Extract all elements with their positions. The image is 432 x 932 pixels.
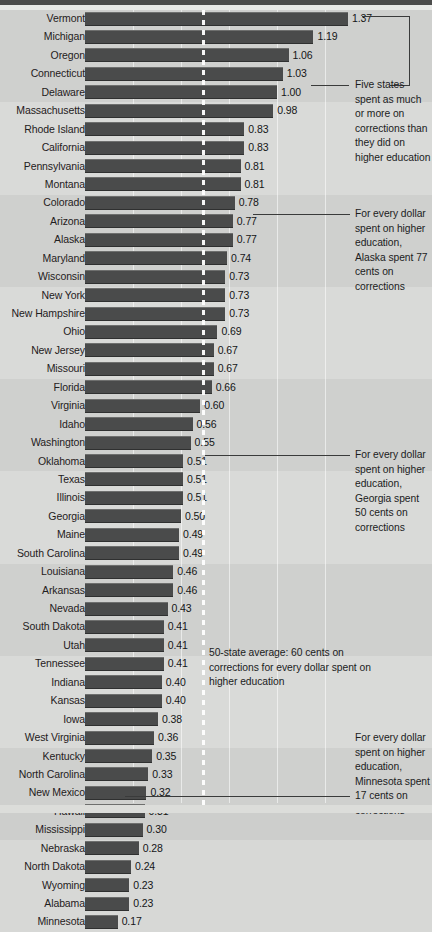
bar (85, 122, 244, 136)
bar-value-label: 0.40 (166, 675, 186, 690)
bar-value-label: 0.33 (152, 767, 172, 782)
state-label: Oregon (51, 48, 85, 63)
bar (85, 48, 289, 62)
state-label: North Dakota (24, 859, 85, 874)
bar-value-label: 0.73 (229, 306, 249, 321)
bar (85, 177, 241, 191)
state-label: Indiana (51, 675, 85, 690)
state-label: Washington (31, 435, 85, 450)
bar (85, 491, 183, 505)
bar-row: Montana0.81 (0, 176, 432, 194)
bar (85, 546, 179, 560)
bar (85, 620, 164, 634)
bar (85, 638, 164, 652)
bar-row: Oregon1.06 (0, 47, 432, 65)
bar-value-label: 0.69 (221, 324, 241, 339)
bar (85, 307, 225, 321)
state-label: New Jersey (31, 343, 85, 358)
bar-value-label: 0.77 (237, 214, 257, 229)
state-label: Missouri (47, 361, 85, 376)
state-label: Arkansas (42, 583, 85, 598)
bar (85, 915, 118, 929)
bar (85, 786, 146, 800)
bar-value-label: 0.28 (143, 841, 163, 856)
bar-value-label: 0.66 (216, 380, 236, 395)
bar-row: Missouri0.67 (0, 360, 432, 378)
bar (85, 251, 227, 265)
bar-value-label: 0.40 (166, 693, 186, 708)
bar (85, 141, 244, 155)
bar-row: Vermont1.37 (0, 10, 432, 28)
state-label: Wisconsin (38, 269, 85, 284)
annotation-average: 50-state average: 60 cents on correction… (209, 646, 389, 690)
state-label: New Hampshire (12, 306, 85, 321)
bar (85, 897, 129, 911)
bar (85, 325, 217, 339)
bar-value-label: 0.46 (177, 583, 197, 598)
bar-value-label: 0.32 (150, 785, 170, 800)
bar-value-label: 1.19 (317, 29, 337, 44)
bar-row: New Hampshire0.73 (0, 305, 432, 323)
bar-value-label: 1.00 (281, 85, 301, 100)
bar-value-label: 0.24 (135, 859, 155, 874)
bar (85, 380, 212, 394)
state-label: New Mexico (29, 785, 85, 800)
bar (85, 675, 162, 689)
state-label: Florida (54, 380, 85, 395)
bar-row: Arkansas0.46 (0, 582, 432, 600)
bar (85, 196, 235, 210)
bar-value-label: 0.41 (168, 656, 188, 671)
bar-value-label: 0.36 (158, 730, 178, 745)
bar-row: Nebraska0.28 (0, 840, 432, 858)
bar (85, 417, 193, 431)
state-label: Mississippi (35, 822, 85, 837)
bar-value-label: 0.60 (204, 398, 224, 413)
state-label: Oklahoma (38, 454, 85, 469)
bar-value-label: 0.17 (122, 914, 142, 929)
bar-value-label: 0.23 (133, 878, 153, 893)
bar-row: Minnesota0.17 (0, 913, 432, 931)
bar-value-label: 0.41 (168, 619, 188, 634)
bar (85, 454, 183, 468)
bar (85, 399, 200, 413)
bar (85, 509, 181, 523)
bar (85, 657, 164, 671)
bar-value-label: 0.81 (245, 159, 265, 174)
state-label: Utah (63, 638, 85, 653)
bar-row: Florida0.66 (0, 379, 432, 397)
bar (85, 214, 233, 228)
bar-value-label: 0.41 (168, 638, 188, 653)
bar (85, 731, 154, 745)
state-label: Ohio (63, 324, 85, 339)
bar-value-label: 0.81 (245, 177, 265, 192)
state-label: Georgia (48, 509, 85, 524)
state-label: Michigan (44, 29, 85, 44)
bottom-strip (0, 805, 432, 813)
state-label: Tennessee (35, 656, 85, 671)
bar (85, 159, 241, 173)
bar (85, 472, 183, 486)
bar-value-label: 0.38 (162, 712, 182, 727)
bar (85, 270, 225, 284)
state-label: Iowa (63, 712, 85, 727)
bar-value-label: 1.06 (293, 48, 313, 63)
bar-value-label: 0.83 (248, 140, 268, 155)
bar-value-label: 0.50 (185, 509, 205, 524)
bar (85, 343, 214, 357)
bar-row: Ohio0.69 (0, 323, 432, 341)
bar (85, 85, 277, 99)
bar-value-label: 0.23 (133, 896, 153, 911)
bar-row: Alabama0.23 (0, 895, 432, 913)
bar-row: Kansas0.40 (0, 692, 432, 710)
state-label: New York (41, 288, 85, 303)
state-label: Connecticut (31, 66, 85, 81)
annotation-five-states: Five states spent as much or more on cor… (355, 78, 431, 166)
bar-row: South Carolina0.49 (0, 545, 432, 563)
state-label: Maryland (43, 251, 85, 266)
bar-value-label: 0.83 (248, 122, 268, 137)
bar-value-label: 0.55 (195, 435, 215, 450)
bar-value-label: 1.03 (287, 66, 307, 81)
bar (85, 602, 168, 616)
state-label: South Dakota (23, 619, 85, 634)
